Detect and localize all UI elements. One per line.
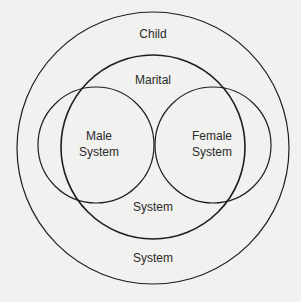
female-label: Female <box>192 129 232 143</box>
child-system-circle <box>17 12 289 284</box>
marital-label: Marital <box>135 73 171 87</box>
child-label: Child <box>139 27 166 41</box>
female-system-label: System <box>192 145 232 159</box>
child-system-label: System <box>133 251 173 265</box>
family-systems-diagram: Child System Marital System Male System … <box>0 0 301 302</box>
male-system-label: System <box>79 145 119 159</box>
male-label: Male <box>86 129 112 143</box>
marital-system-label: System <box>133 200 173 214</box>
